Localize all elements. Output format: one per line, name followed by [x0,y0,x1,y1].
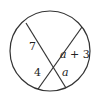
label-upper-right: a + 3 [60,48,90,61]
chord-diagram: 7 4 a + 3 a [0,0,99,100]
label-lower-left: 4 [34,66,41,79]
label-upper-left: 7 [29,40,36,53]
label-upper-right-rest: + 3 [67,48,90,61]
label-lower-right: a [62,66,69,79]
